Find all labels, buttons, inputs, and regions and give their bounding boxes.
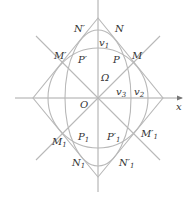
label-M1: M1 xyxy=(51,136,67,149)
label-origin-O: O xyxy=(80,99,88,110)
label-M1-prime: M′1 xyxy=(140,128,158,141)
label-v3: v3 xyxy=(116,86,127,99)
label-M: M xyxy=(131,50,143,61)
label-v2: v2 xyxy=(134,86,145,99)
label-Omega: Ω xyxy=(100,72,109,83)
label-P-prime: P′ xyxy=(77,54,88,65)
label-N: N xyxy=(114,23,125,34)
label-P1: P1 xyxy=(77,131,89,144)
label-N-prime: N′ xyxy=(73,23,86,34)
label-M-prime: M′ xyxy=(53,50,67,61)
label-P: P xyxy=(112,54,120,65)
label-P1-prime: P′1 xyxy=(106,131,120,144)
geometry-diagram: N′ N v1 M′ M P′ P Ω v3 v2 O x M1 P1 P′1 … xyxy=(0,0,193,207)
label-N1-prime: N′1 xyxy=(118,157,135,170)
x-axis-arrow-icon xyxy=(177,96,183,101)
label-x-axis: x xyxy=(176,101,182,112)
